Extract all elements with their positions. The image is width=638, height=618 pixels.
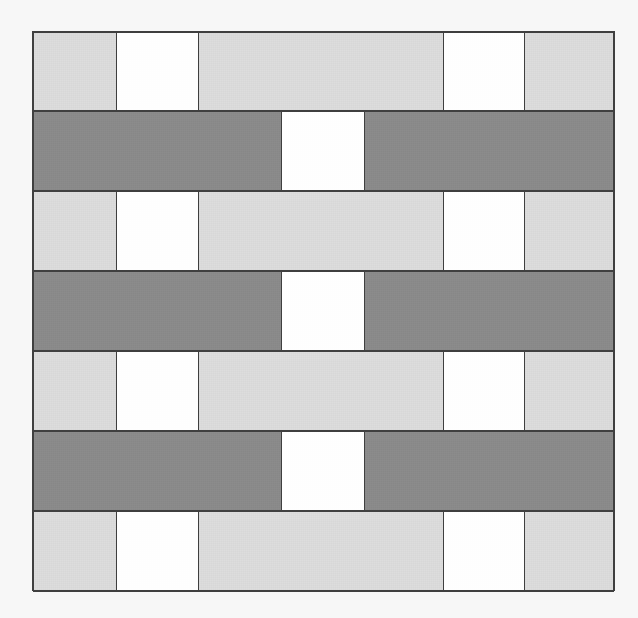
pattern-grid (33, 32, 614, 592)
pattern-row (33, 32, 614, 112)
pattern-tile-light (32, 351, 118, 431)
pattern-tile-white (116, 31, 199, 111)
pattern-tile-light (32, 191, 118, 271)
pattern-tile-dark (364, 271, 615, 351)
pattern-tile-dark (364, 111, 615, 191)
pattern-tile-white (116, 351, 199, 431)
pattern-tile-light (198, 351, 445, 431)
pattern-row (33, 432, 614, 512)
pattern-row (33, 192, 614, 272)
pattern-tile-light (524, 191, 615, 271)
pattern-tile-light (524, 511, 615, 591)
pattern-tile-white (443, 351, 526, 431)
pattern-tile-white (443, 31, 526, 111)
pattern-tile-light (32, 511, 118, 591)
pattern-tile-dark (32, 431, 282, 511)
pattern-tile-dark (364, 431, 615, 511)
pattern-tile-white (281, 271, 365, 351)
pattern-row (33, 112, 614, 192)
pattern-tile-white (116, 191, 199, 271)
pattern-tile-white (116, 511, 199, 591)
pattern-tile-light (198, 511, 445, 591)
pattern-tile-light (32, 31, 118, 111)
pattern-tile-white (443, 191, 526, 271)
pattern-tile-light (524, 31, 615, 111)
pattern-row (33, 512, 614, 592)
pattern-row (33, 272, 614, 352)
pattern-tile-light (198, 31, 445, 111)
pattern-row (33, 352, 614, 432)
pattern-tile-white (443, 511, 526, 591)
pattern-tile-white (281, 431, 365, 511)
pattern-tile-light (524, 351, 615, 431)
pattern-tile-light (198, 191, 445, 271)
pattern-tile-dark (32, 111, 282, 191)
pattern-tile-dark (32, 271, 282, 351)
pattern-tile-white (281, 111, 365, 191)
